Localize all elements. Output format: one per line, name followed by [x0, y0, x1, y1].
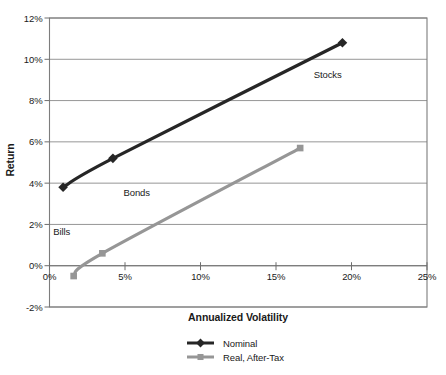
y-tick-label: 8%: [29, 95, 43, 106]
legend-label-real-after-tax: Real, After-Tax: [223, 352, 284, 363]
legend-swatch-marker: [196, 339, 205, 348]
x-tick-label: 0%: [43, 271, 57, 282]
annotation-bills: Bills: [53, 226, 70, 237]
annotation-stocks: Stocks: [314, 69, 342, 80]
legend-swatch-marker: [197, 354, 203, 360]
series-line-nominal: [63, 43, 342, 188]
series-line-real-after-tax: [74, 148, 301, 276]
legend-item-real-after-tax: Real, After-Tax: [186, 350, 284, 364]
y-tick-label: 4%: [29, 178, 43, 189]
y-tick-label: 6%: [29, 136, 43, 147]
x-tick-label: 15%: [267, 271, 286, 282]
marker-bills-real-after-tax: [70, 273, 77, 280]
y-tick-label: 0%: [29, 260, 43, 271]
x-tick-label: 25%: [418, 271, 437, 282]
legend: Nominal Real, After-Tax: [186, 336, 284, 364]
marker-stocks-real-after-tax: [297, 145, 304, 152]
y-tick-label: -2%: [26, 302, 43, 313]
y-tick-label: 10%: [24, 54, 43, 65]
legend-item-nominal: Nominal: [186, 336, 284, 350]
nominal-line-swatch: [186, 337, 216, 349]
y-axis-title: Return: [4, 143, 16, 176]
chart: -2%0%2%4%6%8%10%12%0%5%10%15%20%25%Stock…: [0, 0, 446, 375]
annotation-bonds: Bonds: [123, 187, 150, 198]
x-tick-label: 10%: [191, 271, 210, 282]
marker-bonds-real-after-tax: [99, 250, 106, 257]
x-axis-title: Annualized Volatility: [49, 311, 427, 323]
x-tick-label: 20%: [342, 271, 361, 282]
y-tick-label: 2%: [29, 219, 43, 230]
legend-label-nominal: Nominal: [223, 338, 257, 349]
real-after-tax-line-swatch: [186, 351, 216, 363]
x-tick-label: 5%: [118, 271, 132, 282]
y-tick-label: 12%: [24, 13, 43, 24]
